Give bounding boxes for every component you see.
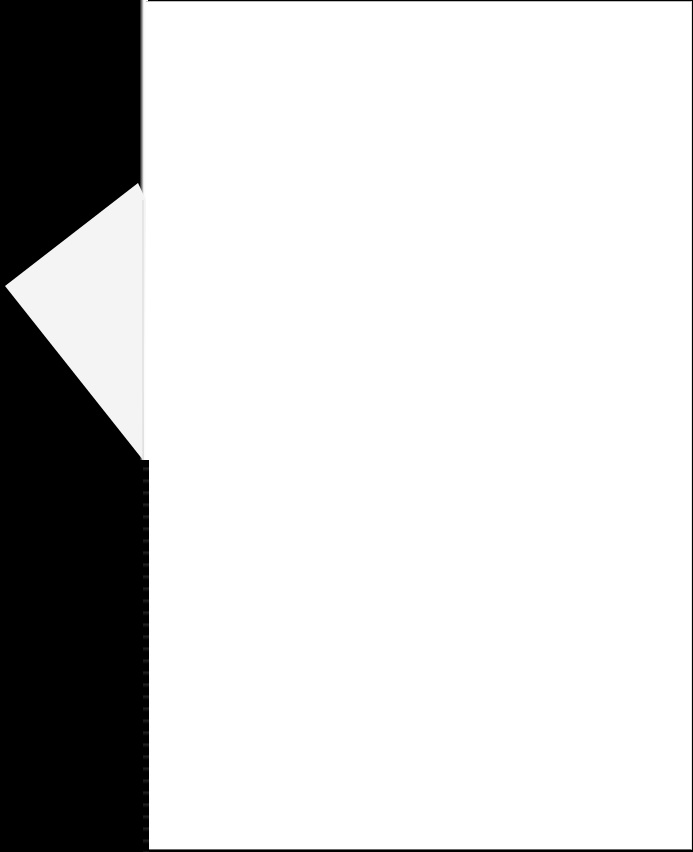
scanned-document	[0, 0, 693, 852]
folded-corner	[0, 0, 693, 852]
page-torn-edge	[143, 460, 149, 852]
